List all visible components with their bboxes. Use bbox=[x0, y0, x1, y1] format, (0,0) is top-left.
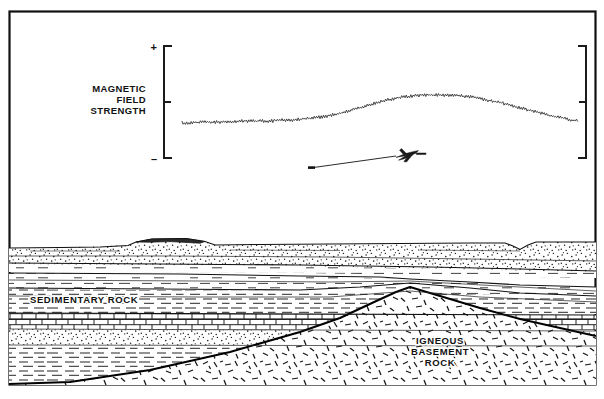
magnetic-field-trace bbox=[182, 94, 578, 125]
survey-aircraft-icon bbox=[396, 149, 426, 162]
label-igneous-line-2: BASEMENT bbox=[411, 346, 469, 357]
survey-aircraft-group bbox=[308, 149, 426, 169]
axis-negative-sign: – bbox=[151, 153, 157, 165]
magnetic-field-strength-label: MAGNETIC FIELD STRENGTH bbox=[91, 83, 146, 116]
figure-root: + – MAGNETIC FIELD STRENGTH bbox=[0, 0, 604, 399]
flight-path-line bbox=[310, 156, 396, 168]
axis-label-line-2: FIELD bbox=[117, 94, 146, 105]
scale-bracket-left bbox=[164, 46, 172, 158]
axis-label-line-3: STRENGTH bbox=[91, 105, 146, 116]
label-sedimentary-rock: SEDIMENTARY ROCK bbox=[30, 294, 138, 305]
label-igneous-line-1: IGNEOUS bbox=[416, 335, 464, 346]
flight-path-start-marker bbox=[308, 166, 315, 169]
cross-section-diagram: + – MAGNETIC FIELD STRENGTH bbox=[0, 0, 604, 399]
label-igneous-line-3: ROCK bbox=[425, 357, 455, 368]
scale-bracket-right bbox=[578, 46, 586, 158]
geologic-section bbox=[9, 239, 596, 386]
axis-positive-sign: + bbox=[151, 41, 157, 53]
magnetic-profile-panel: + – MAGNETIC FIELD STRENGTH bbox=[91, 41, 586, 165]
axis-label-line-1: MAGNETIC bbox=[92, 83, 146, 94]
